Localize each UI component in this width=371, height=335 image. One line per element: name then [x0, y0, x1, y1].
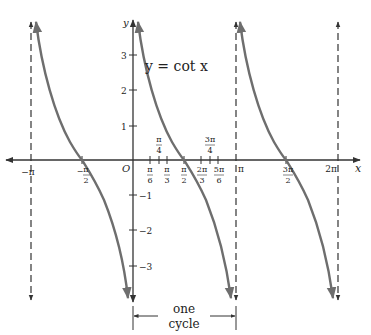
svg-text:4: 4	[156, 146, 161, 155]
svg-text:−: −	[77, 167, 84, 176]
one-cycle-label-2: cycle	[168, 317, 199, 331]
y-axis-label: y	[122, 17, 129, 28]
svg-text:4: 4	[207, 146, 212, 155]
svg-text:2: 2	[121, 86, 127, 96]
svg-text:2: 2	[181, 176, 186, 185]
svg-text:3: 3	[199, 176, 204, 185]
one-cycle-label-1: one	[173, 302, 195, 316]
one-cycle-annotation: one cycle	[133, 302, 236, 331]
cot-graph: y x O y = cot x 3 2 1 −1 −2 −3 −π − π 2 …	[0, 0, 371, 335]
svg-text:π: π	[83, 165, 88, 174]
svg-text:−3: −3	[139, 262, 153, 272]
svg-text:3π: 3π	[283, 165, 293, 174]
svg-text:1: 1	[121, 122, 127, 132]
svg-text:−1: −1	[139, 191, 152, 201]
svg-text:2: 2	[285, 176, 290, 185]
svg-text:3: 3	[164, 176, 169, 185]
svg-text:π: π	[164, 165, 169, 174]
svg-text:2: 2	[83, 176, 88, 185]
svg-text:2π: 2π	[197, 165, 207, 174]
svg-text:π: π	[156, 135, 161, 144]
svg-text:2π: 2π	[325, 164, 337, 174]
svg-text:3π: 3π	[205, 135, 215, 144]
x-axis-label: x	[355, 162, 362, 175]
function-label: y = cot x	[144, 58, 208, 74]
svg-text:3: 3	[121, 51, 127, 61]
svg-text:5π: 5π	[214, 165, 224, 174]
svg-text:π: π	[147, 165, 152, 174]
svg-text:−π: −π	[21, 167, 35, 177]
svg-text:−2: −2	[139, 226, 152, 236]
svg-text:6: 6	[216, 176, 221, 185]
origin-label: O	[122, 163, 130, 174]
svg-text:6: 6	[147, 176, 152, 185]
y-tick-labels: 3 2 1 −1 −2 −3	[121, 51, 153, 272]
svg-text:π: π	[238, 164, 244, 174]
svg-text:π: π	[181, 165, 186, 174]
